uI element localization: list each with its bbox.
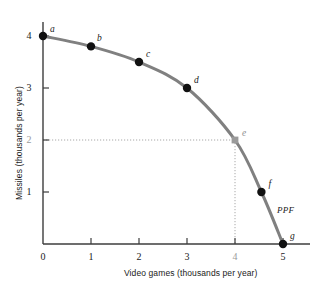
y-tick-label-3: 3 <box>21 82 37 93</box>
data-point-g[interactable] <box>279 240 287 248</box>
point-label-g: g <box>290 231 295 241</box>
data-point-d[interactable] <box>183 84 191 92</box>
data-point-e[interactable] <box>232 137 239 144</box>
point-label-b: b <box>97 33 102 43</box>
x-tick-label-0: 0 <box>35 251 51 262</box>
data-point-a[interactable] <box>39 32 47 40</box>
x-tick-label-4: 4 <box>227 251 243 262</box>
point-label-c: c <box>146 49 150 59</box>
point-label-f: f <box>268 179 271 189</box>
x-tick-label-5: 5 <box>275 251 291 262</box>
y-tick-label-2: 2 <box>21 134 37 145</box>
x-tick-label-1: 1 <box>83 251 99 262</box>
x-tick-label-2: 2 <box>131 251 147 262</box>
data-point-c[interactable] <box>135 58 143 66</box>
y-tick-label-4: 4 <box>21 30 37 41</box>
ppf-curve-label: PPF <box>277 205 294 215</box>
data-point-f[interactable] <box>257 188 265 196</box>
chart-plot-area <box>0 0 324 287</box>
y-tick-label-1: 1 <box>21 186 37 197</box>
point-label-d: d <box>194 75 199 85</box>
point-label-e: e <box>242 128 246 138</box>
data-point-b[interactable] <box>87 42 95 50</box>
ppf-chart-figure: Missiles (thousands per year) Video game… <box>0 0 324 287</box>
x-axis-title: Video games (thousands per year) <box>124 268 257 278</box>
point-label-a: a <box>50 24 55 34</box>
x-tick-label-3: 3 <box>179 251 195 262</box>
